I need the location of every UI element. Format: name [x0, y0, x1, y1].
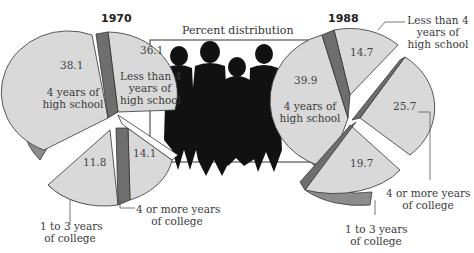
chart-graphic [0, 0, 474, 253]
label-1970-less-hs: Less than 4years ofhigh school [120, 70, 180, 106]
pie-1970 [1, 31, 178, 206]
label-1988-hs4: 4 years ofhigh school [278, 100, 342, 124]
value-1970-less-hs: 36.1 [140, 44, 163, 56]
value-1988-college4: 25.7 [393, 100, 416, 112]
people-silhouette-icon [164, 41, 282, 176]
value-1988-hs4: 39.9 [294, 74, 317, 86]
value-1970-hs4: 38.1 [60, 59, 83, 71]
year-1970-label: 1970 [101, 12, 132, 25]
label-1988-college4: 4 or more yearsof college [386, 187, 470, 211]
value-1988-college13: 19.7 [350, 157, 373, 169]
year-1988-label: 1988 [328, 12, 359, 25]
label-1970-college4: 4 or more yearsof college [136, 203, 218, 227]
chart-title: Percent distribution [182, 24, 294, 37]
value-1970-college13: 11.8 [83, 156, 106, 168]
value-1988-less-hs: 14.7 [350, 46, 373, 58]
label-1970-hs4: 4 years ofhigh school [42, 86, 104, 110]
label-1988-college13: 1 to 3 yearsof college [345, 223, 407, 247]
label-1970-college13: 1 to 3 yearsof college [40, 220, 100, 244]
label-1988-less-hs: Less than 4years ofhigh school [406, 14, 470, 50]
value-1970-college4: 14.1 [133, 147, 156, 159]
